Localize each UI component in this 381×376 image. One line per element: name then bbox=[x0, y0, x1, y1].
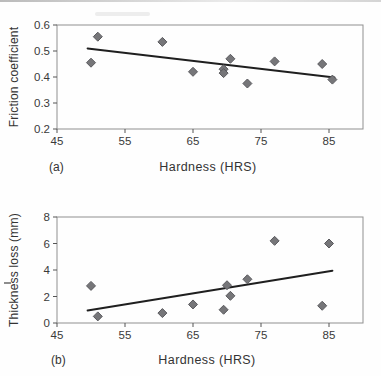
chart-b-x-axis-title: Hardness (HRS) bbox=[158, 353, 255, 367]
data-point-diamond bbox=[158, 37, 167, 46]
y-tick-label: 0 bbox=[44, 317, 50, 329]
data-point-diamond bbox=[87, 58, 96, 67]
trend-line bbox=[88, 48, 335, 77]
x-tick-label: 55 bbox=[119, 329, 132, 341]
chart-b-panel-label: (b) bbox=[51, 353, 66, 367]
x-tick-label: 55 bbox=[119, 135, 132, 147]
data-point-diamond bbox=[270, 57, 279, 66]
chart-a-x-axis-title: Hardness (HRS) bbox=[159, 160, 256, 174]
x-tick-label: 75 bbox=[255, 135, 268, 147]
x-tick-label: 45 bbox=[51, 135, 64, 147]
y-tick-label: 8 bbox=[44, 211, 50, 223]
y-tick-label: 0.5 bbox=[34, 45, 50, 57]
data-point-diamond bbox=[318, 301, 327, 310]
x-tick-label: 85 bbox=[323, 329, 336, 341]
data-point-diamond bbox=[243, 275, 252, 284]
y-tick-label: 0.4 bbox=[34, 71, 51, 83]
y-tick-label: 0.2 bbox=[34, 123, 50, 135]
data-point-diamond bbox=[93, 32, 102, 41]
data-point-diamond bbox=[87, 281, 96, 290]
x-tick-label: 85 bbox=[323, 135, 336, 147]
x-tick-label: 75 bbox=[255, 329, 268, 341]
y-tick-label: 4 bbox=[44, 264, 51, 276]
plot-frame bbox=[57, 25, 363, 129]
chart-a-panel-label: (a) bbox=[49, 160, 64, 174]
chart-b-panel: Thickness loss (mm) 024684555657585 (b) … bbox=[0, 188, 381, 376]
data-point-diamond bbox=[219, 305, 228, 314]
y-tick-label: 2 bbox=[44, 291, 50, 303]
data-point-diamond bbox=[226, 291, 235, 300]
y-tick-label: 0.3 bbox=[34, 97, 50, 109]
data-point-diamond bbox=[325, 239, 334, 248]
y-tick-label: 0.6 bbox=[34, 19, 50, 31]
data-point-diamond bbox=[270, 236, 279, 245]
chart-a-panel: Friction coefficient 0.20.30.40.50.64555… bbox=[0, 0, 381, 188]
data-point-diamond bbox=[226, 54, 235, 63]
data-point-diamond bbox=[93, 312, 102, 321]
scatter-figure: Friction coefficient 0.20.30.40.50.64555… bbox=[0, 0, 381, 376]
data-point-diamond bbox=[189, 300, 198, 309]
data-point-diamond bbox=[243, 79, 252, 88]
x-tick-label: 45 bbox=[51, 329, 64, 341]
x-tick-label: 65 bbox=[187, 135, 200, 147]
data-point-diamond bbox=[318, 60, 327, 69]
data-point-diamond bbox=[189, 67, 198, 76]
data-point-diamond bbox=[158, 309, 167, 318]
chart-b-plot-area: 024684555657585 bbox=[0, 188, 381, 376]
x-tick-label: 65 bbox=[187, 329, 200, 341]
trend-line bbox=[88, 271, 333, 311]
y-tick-label: 6 bbox=[44, 238, 50, 250]
